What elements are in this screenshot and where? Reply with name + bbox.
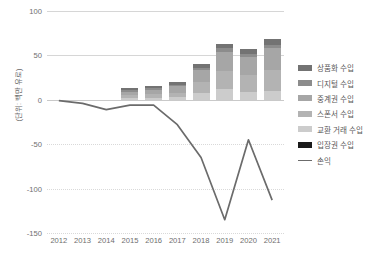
legend-item-5[interactable]: 입장권 수입: [298, 137, 365, 152]
x-axis-ticks: 2012201320142015201620172018201920202021: [47, 236, 284, 252]
x-tick-label-2012: 2012: [50, 236, 67, 245]
y-tick-label: -100: [27, 184, 42, 193]
x-tick-label-2016: 2016: [145, 236, 162, 245]
x-tick-label-2018: 2018: [193, 236, 210, 245]
gridline--150: [47, 233, 284, 234]
legend-item-0[interactable]: 상품화 수입: [298, 60, 365, 75]
legend: 상품화 수입디지털 수입중계권 수입스폰서 수입교환 거래 수입입장권 수입손익: [298, 60, 365, 168]
legend-item-4[interactable]: 교환 거래 수입: [298, 122, 365, 137]
revenue-profit-chart: (단위: 백만 유로) 100500-50-100-150 2012201320…: [0, 0, 365, 254]
legend-label: 입장권 수입: [317, 139, 354, 150]
legend-label: 중계권 수입: [317, 93, 354, 104]
plot-area: 100500-50-100-150: [47, 11, 284, 233]
legend-item-2[interactable]: 중계권 수입: [298, 91, 365, 106]
legend-swatch-icon: [298, 142, 312, 148]
y-tick-label: -150: [27, 229, 42, 238]
x-tick-label-2013: 2013: [74, 236, 91, 245]
legend-swatch-icon: [298, 80, 312, 86]
legend-swatch-icon: [298, 126, 312, 132]
legend-label: 손익: [317, 155, 331, 166]
x-tick-label-2014: 2014: [98, 236, 115, 245]
x-tick-label-2017: 2017: [169, 236, 186, 245]
legend-swatch-icon: [298, 111, 312, 117]
legend-line-icon: [298, 160, 312, 161]
y-tick-label: 0: [38, 95, 42, 104]
x-tick-label-2019: 2019: [216, 236, 233, 245]
profit-line-layer: [47, 11, 284, 233]
legend-label: 교환 거래 수입: [317, 124, 363, 135]
x-tick-label-2015: 2015: [121, 236, 138, 245]
x-tick-label-2020: 2020: [240, 236, 257, 245]
legend-label: 스폰서 수입: [317, 108, 354, 119]
legend-swatch-icon: [298, 65, 312, 71]
legend-swatch-icon: [298, 95, 312, 101]
x-tick-label-2021: 2021: [264, 236, 281, 245]
y-tick-label: 50: [34, 51, 42, 60]
legend-item-1[interactable]: 디지털 수입: [298, 75, 365, 90]
profit-line[interactable]: [59, 101, 272, 220]
legend-label: 디지털 수입: [317, 78, 354, 89]
y-axis-title: (단위: 백만 유로): [13, 30, 23, 160]
y-tick-label: -50: [31, 140, 42, 149]
legend-label: 상품화 수입: [317, 62, 354, 73]
legend-item-6[interactable]: 손익: [298, 152, 365, 167]
legend-item-3[interactable]: 스폰서 수입: [298, 106, 365, 121]
y-tick-label: 100: [29, 7, 42, 16]
